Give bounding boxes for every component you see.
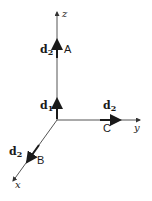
point-b-label: B (37, 155, 44, 166)
vector-d1-label: d1 (40, 100, 53, 112)
point-a-label: A (64, 44, 71, 55)
vector-b-label: d2 (9, 146, 22, 158)
y-axis-label: y (134, 123, 140, 133)
vector-c-label: d2 (103, 100, 116, 112)
vector-a-label: d2 (40, 44, 53, 56)
x-axis-label: x (15, 180, 21, 190)
point-c-label: C (103, 123, 111, 134)
axes-diagram (0, 0, 152, 201)
z-axis-label: z (62, 9, 67, 19)
